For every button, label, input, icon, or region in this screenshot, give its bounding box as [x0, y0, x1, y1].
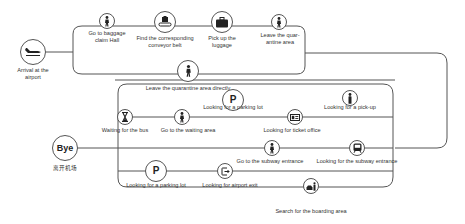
parking-icon: P: [145, 160, 167, 182]
end-sublabel: 离开机场: [53, 165, 77, 172]
row4-label-1: Looking for a parking lot: [126, 182, 186, 189]
row2-label-1: Waiting for the bus: [102, 127, 148, 134]
walking-person-icon: [271, 14, 287, 30]
route-lines: [0, 0, 465, 224]
bottom-label: Search for the boarding area: [275, 208, 346, 215]
walking-person-icon: [99, 13, 115, 29]
walking-person-icon: [177, 60, 199, 82]
row3-label-1: Go to the subway entrance: [237, 158, 304, 165]
top-route-label-1: Go to baggage claim Hall: [84, 30, 130, 43]
row1-label-2: Looking for a pick-up: [324, 104, 376, 111]
subway-train-icon: [349, 140, 365, 156]
top-route-label-3: Pick up the luggage: [204, 35, 240, 48]
airplane-icon: [20, 39, 46, 65]
row2-label-3: Looking for ticket office: [263, 127, 320, 134]
exit-icon: [217, 163, 233, 179]
row2-label-2: Go to the waiting area: [161, 127, 216, 134]
direct-exit-label: Leave the quarantine area directly: [146, 85, 231, 92]
bye-text: Bye: [57, 143, 74, 153]
suitcase-icon: [211, 11, 233, 33]
walking-person-icon: [264, 140, 280, 156]
parking-glyph: P: [153, 166, 160, 176]
row1-label-1: Looking for a parking lot: [203, 104, 263, 111]
row4-label-2: Looking for airport exit: [202, 182, 257, 189]
hourglass-icon: [117, 109, 133, 125]
taxi-person-icon: [303, 178, 319, 194]
row3-label-2: Looking for the subway entrance: [317, 158, 398, 165]
bye-badge: Bye: [52, 135, 78, 161]
conveyor-belt-icon: [154, 11, 176, 33]
top-route-label-4: Leave the quar- antine area: [258, 32, 302, 45]
ticket-icon: [287, 109, 303, 125]
start-label: Arrival at the airport: [13, 67, 53, 80]
walking-person-icon: [174, 109, 190, 125]
top-route-label-2: Find the corresponding conveyor belt: [134, 35, 196, 48]
